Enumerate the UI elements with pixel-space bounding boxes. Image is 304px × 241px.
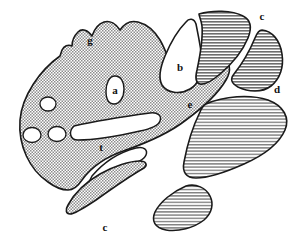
vesicle-1 [40,97,56,111]
notch-b [160,19,202,92]
label-e: e [188,98,193,110]
figure-container: g a b c d e t c [0,0,304,241]
label-c-top: c [260,10,265,22]
label-a: a [112,84,118,96]
lower-centre-lobe-shape [153,185,212,230]
vesicle-2 [23,128,41,143]
notch-b-shape [160,19,202,92]
vesicle-3 [48,127,66,142]
region-lower-centre-lobe [153,185,212,230]
label-t: t [99,141,103,153]
label-c-bottom: c [103,221,108,233]
section-diagram: g a b c d e t c [0,0,304,241]
label-d: d [274,83,280,95]
label-g: g [87,34,93,46]
label-b: b [177,61,183,73]
